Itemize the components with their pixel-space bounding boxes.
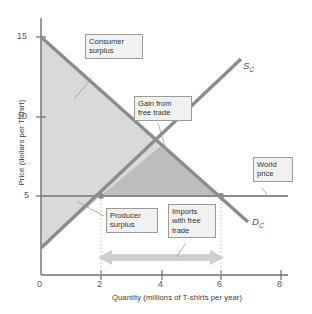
annotation-producer-surplus: Producer surplus — [106, 208, 158, 233]
x-axis-title: Quantity (millions of T-shirts per year) — [112, 293, 242, 302]
x-tick-label-8: 8 — [277, 279, 282, 289]
point-q2-world-price — [98, 193, 104, 199]
leader-world-price — [262, 188, 268, 196]
y-axis-title: Price (dollars per T-shirt) — [17, 81, 26, 205]
annotation-gain-from-free-trade: Gain from free trade — [134, 96, 192, 121]
y-tick-label-15: 15 — [17, 31, 27, 41]
y-tick-label-5: 5 — [24, 190, 29, 200]
supply-curve-label: SC — [243, 60, 254, 73]
demand-curve-label: DC — [252, 216, 264, 229]
point-q6-world-price — [218, 193, 224, 199]
annotation-imports-with-free-trade: Imports with free trade — [168, 204, 216, 238]
x-tick-label-0: 0 — [37, 279, 42, 289]
demand-curve-letter: D — [252, 216, 259, 227]
supply-curve-subscript: C — [249, 66, 254, 73]
y-tick-label-10: 10 — [17, 111, 27, 121]
x-tick-label-4: 4 — [158, 279, 163, 289]
x-tick-label-2: 2 — [97, 279, 102, 289]
annotation-world-price: World price — [253, 157, 293, 182]
x-tick-label-6: 6 — [217, 279, 222, 289]
annotation-consumer-surplus: Consumer surplus — [85, 34, 143, 59]
trade-surplus-chart: Price (dollars per T-shirt) Quantity (mi… — [0, 0, 312, 314]
demand-curve-subscript: C — [259, 222, 264, 229]
imports-span-arrow — [98, 250, 224, 265]
